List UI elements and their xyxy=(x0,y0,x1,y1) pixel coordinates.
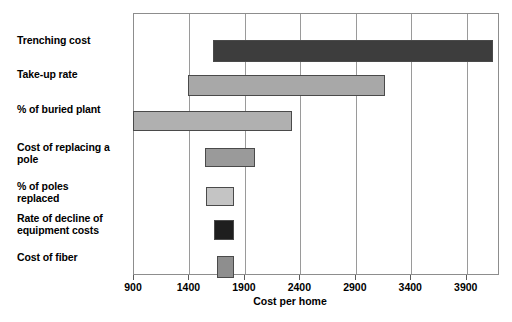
x-axis-title: Cost per home xyxy=(0,295,512,307)
x-axis-title-text: Cost per home xyxy=(253,295,327,307)
x-axis: 900 1400 1900 2400 2900 3400 3900 Cost p… xyxy=(0,0,512,322)
tick-mark-2900 xyxy=(355,275,356,280)
tick-label-1400: 1400 xyxy=(177,281,200,293)
tick-mark-3400 xyxy=(410,275,411,280)
tick-label-3400: 3400 xyxy=(399,281,422,293)
tick-label-2900: 2900 xyxy=(343,281,366,293)
tick-label-1900: 1900 xyxy=(232,281,255,293)
tick-mark-1900 xyxy=(244,275,245,280)
tick-mark-1400 xyxy=(188,275,189,280)
tick-mark-900 xyxy=(133,275,134,280)
tick-mark-2400 xyxy=(299,275,300,280)
tick-label-900: 900 xyxy=(124,281,142,293)
tornado-chart: Trenching cost Take-up rate % of buried … xyxy=(0,0,512,322)
tick-label-3900: 3900 xyxy=(454,281,477,293)
tick-mark-3900 xyxy=(466,275,467,280)
tick-label-2400: 2400 xyxy=(288,281,311,293)
